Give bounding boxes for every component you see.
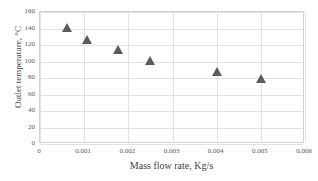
x-axis-ticks: 00.0010.0020.0030.0040.0050.006 <box>0 0 318 181</box>
x-axis-tick-label: 0 <box>19 147 59 155</box>
x-axis-title: Mass flow rate, Kg/s <box>39 160 304 172</box>
chart-figure: Outlet temperature, °C 02040608010012014… <box>0 0 318 181</box>
x-axis-tick-label: 0.003 <box>152 147 192 155</box>
x-axis-tick-label: 0.002 <box>107 147 147 155</box>
x-axis-tick-label: 0.006 <box>284 147 318 155</box>
x-axis-tick-label: 0.004 <box>196 147 236 155</box>
x-axis-tick-label: 0.001 <box>63 147 103 155</box>
x-axis-tick-label: 0.005 <box>240 147 280 155</box>
